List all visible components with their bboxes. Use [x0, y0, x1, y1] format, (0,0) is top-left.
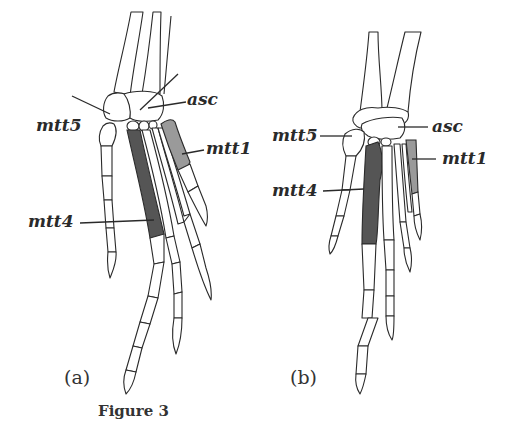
- label-mtt5-a: mtt5: [36, 117, 82, 134]
- panel-label-b: (b): [290, 368, 317, 387]
- label-mtt1-a: mtt1: [206, 140, 252, 157]
- panel-label-a: (a): [64, 368, 90, 387]
- label-mtt5-b: mtt5: [272, 127, 318, 144]
- label-mtt1-b: mtt1: [442, 150, 488, 167]
- panel-b-skeleton: [320, 32, 436, 394]
- figure-3: asc mtt5 mtt1 mtt4 (a) asc mtt5 mtt1 mtt…: [0, 0, 514, 432]
- label-asc-a: asc: [187, 91, 218, 108]
- label-asc-b: asc: [432, 118, 463, 135]
- label-mtt4-a: mtt4: [28, 213, 74, 230]
- panel-a-skeleton: [72, 12, 211, 394]
- figure-caption: Figure 3: [98, 404, 169, 419]
- label-mtt4-b: mtt4: [272, 182, 318, 199]
